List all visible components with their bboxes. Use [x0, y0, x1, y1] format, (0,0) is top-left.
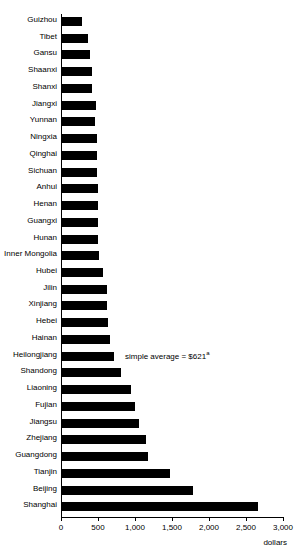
bar-row: Guangdong — [61, 449, 283, 465]
x-tick-label: 1,500 — [162, 523, 182, 532]
bar-row: Tibet — [61, 31, 283, 47]
category-label: Sichuan — [28, 164, 57, 177]
category-label: Jiangsu — [29, 415, 57, 428]
category-label: Qinghai — [29, 147, 57, 160]
bar-row: Liaoning — [61, 382, 283, 398]
x-tick — [61, 517, 62, 521]
bar-row: Hunan — [61, 232, 283, 248]
cropped-title-region — [0, 0, 301, 7]
bar — [61, 301, 107, 310]
bar-row: Gansu — [61, 47, 283, 63]
footnote-marker: a — [206, 350, 209, 356]
bar-row: Fujian — [61, 399, 283, 415]
bar — [61, 168, 97, 177]
bar — [61, 218, 98, 227]
x-tick-label: 500 — [91, 523, 104, 532]
category-label: Hebei — [36, 314, 57, 327]
bar-row: Xinjiang — [61, 298, 283, 314]
category-label: Beijing — [33, 482, 57, 495]
bar — [61, 101, 96, 110]
bar — [61, 318, 108, 327]
category-label: Shaanxi — [28, 63, 57, 76]
bar-row: Qinghai — [61, 148, 283, 164]
x-tick — [209, 517, 210, 521]
bar-chart: GuizhouTibetGansuShaanxiShanxiJiangxiYun… — [0, 0, 301, 553]
bar — [61, 385, 131, 394]
bar — [61, 17, 82, 26]
bar — [61, 184, 98, 193]
average-annotation: simple average = $621a — [125, 350, 210, 361]
bar — [61, 285, 107, 294]
x-tick-label: 2,500 — [236, 523, 256, 532]
bar — [61, 469, 170, 478]
bar-row: Shandong — [61, 365, 283, 381]
category-label: Shanghai — [23, 498, 57, 511]
bar — [61, 134, 97, 143]
bar-row: Jilin — [61, 282, 283, 298]
bar-row: Sichuan — [61, 165, 283, 181]
category-label: Guangdong — [15, 448, 57, 461]
category-label: Xinjiang — [29, 297, 57, 310]
x-tick-label: 3,000 — [273, 523, 293, 532]
bar — [61, 251, 99, 260]
bar-row: Henan — [61, 198, 283, 214]
x-tick — [98, 517, 99, 521]
category-label: Heilongjiang — [13, 348, 57, 361]
category-label: Liaoning — [27, 381, 57, 394]
category-label: Jiangxi — [32, 97, 57, 110]
category-label: Inner Mongolia — [4, 247, 57, 260]
bar — [61, 117, 95, 126]
bar — [61, 235, 98, 244]
x-tick — [246, 517, 247, 521]
average-annotation-text: simple average = $621 — [125, 351, 206, 360]
bar-row: Beijing — [61, 483, 283, 499]
x-tick — [172, 517, 173, 521]
category-label: Tibet — [40, 30, 58, 43]
category-label: Hunan — [33, 231, 57, 244]
bar — [61, 335, 110, 344]
bar — [61, 50, 90, 59]
bar-row: Hubei — [61, 265, 283, 281]
x-tick — [135, 517, 136, 521]
bar-row: Guangxi — [61, 215, 283, 231]
category-label: Guangxi — [27, 214, 57, 227]
x-tick-label: 1,000 — [125, 523, 145, 532]
bar-row: Inner Mongolia — [61, 248, 283, 264]
bar-row: Hebei — [61, 315, 283, 331]
category-label: Shanxi — [33, 80, 57, 93]
bar — [61, 201, 98, 210]
bar-row: Jiangsu — [61, 416, 283, 432]
category-label: Hubei — [36, 264, 57, 277]
category-label: Hainan — [32, 331, 57, 344]
bar-row: Zhejiang — [61, 432, 283, 448]
category-label: Zhejiang — [26, 431, 57, 444]
x-tick — [283, 517, 284, 521]
bar — [61, 67, 92, 76]
plot-area: GuizhouTibetGansuShaanxiShanxiJiangxiYun… — [61, 14, 283, 516]
bar — [61, 368, 121, 377]
bar — [61, 502, 258, 511]
bar-row: Tianjin — [61, 466, 283, 482]
category-label: Anhui — [37, 180, 57, 193]
bar — [61, 435, 146, 444]
x-axis-title: dollars — [263, 538, 287, 547]
bar-row: Guizhou — [61, 14, 283, 30]
category-label: Gansu — [33, 46, 57, 59]
category-label: Yunnan — [30, 113, 57, 126]
category-label: Jilin — [43, 281, 57, 294]
bar — [61, 452, 148, 461]
bar-row: Anhui — [61, 181, 283, 197]
bar — [61, 486, 193, 495]
category-label: Ningxia — [30, 130, 57, 143]
bar-row: Shanghai — [61, 499, 283, 515]
bar — [61, 151, 97, 160]
bar — [61, 419, 139, 428]
category-label: Fujian — [35, 398, 57, 411]
category-label: Shandong — [21, 364, 57, 377]
bar — [61, 402, 135, 411]
bar — [61, 34, 88, 43]
bar-row: Jiangxi — [61, 98, 283, 114]
bar — [61, 352, 114, 361]
category-label: Henan — [33, 197, 57, 210]
bar-row: Shaanxi — [61, 64, 283, 80]
